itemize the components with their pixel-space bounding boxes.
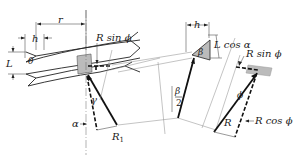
force-middle bbox=[178, 58, 194, 118]
gear-geometry-diagram: r h L θ R sin ϕ bbox=[0, 0, 301, 157]
label-beta-half-den: 2 bbox=[176, 98, 182, 108]
ray-line bbox=[158, 62, 165, 134]
label-r: r bbox=[58, 14, 64, 25]
r1-base-line bbox=[97, 126, 117, 130]
right-view: R sin ϕ ϕ R R cos ϕ bbox=[202, 38, 293, 137]
left-view: r h L θ R sin ϕ bbox=[5, 10, 178, 155]
label-r-sin-phi-right: R sin ϕ bbox=[245, 48, 282, 59]
ray-line bbox=[178, 118, 216, 130]
label-beta: β bbox=[197, 47, 203, 57]
label-phi: ϕ bbox=[237, 90, 243, 100]
construction-line bbox=[100, 50, 112, 100]
arrow-icon bbox=[81, 23, 85, 26]
ray-line bbox=[112, 52, 192, 65]
shaded-element bbox=[77, 54, 92, 74]
label-alpha: α bbox=[72, 118, 79, 129]
arrow-icon bbox=[245, 120, 249, 123]
r-base-line bbox=[214, 132, 235, 137]
arrow-icon bbox=[204, 24, 208, 27]
label-beta-half-num: β bbox=[174, 86, 180, 96]
label-r-cos-phi: R cos ϕ bbox=[254, 115, 293, 126]
r-cos-phi-component bbox=[235, 73, 257, 137]
construction-line bbox=[118, 118, 178, 125]
shaded-bar bbox=[246, 65, 272, 76]
arrow-icon bbox=[187, 24, 191, 27]
arrow-icon bbox=[44, 37, 48, 40]
arrow-icon bbox=[21, 37, 25, 40]
label-h-middle: h bbox=[194, 19, 200, 30]
arrow-icon bbox=[12, 74, 15, 78]
label-gamma: γ bbox=[91, 94, 97, 105]
label-R1: R1 bbox=[111, 131, 124, 144]
label-h: h bbox=[32, 33, 38, 44]
label-L: L bbox=[5, 58, 13, 69]
label-R: R bbox=[223, 117, 232, 128]
arrow-icon bbox=[83, 123, 87, 126]
arrow-icon bbox=[37, 23, 41, 26]
arrow-icon bbox=[12, 48, 15, 52]
label-r-sin-phi-left: R sin ϕ bbox=[95, 32, 132, 43]
force-R bbox=[214, 75, 256, 132]
